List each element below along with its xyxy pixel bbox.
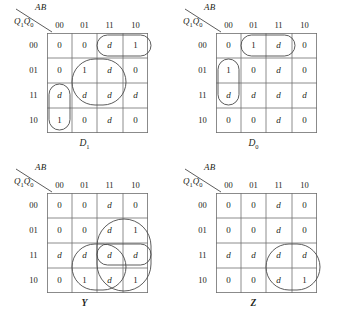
kmap-cell: 0 [216,33,241,58]
kmap-cell: d [72,83,97,108]
kmap-grid-d1: 00d101d0dddd10d0 [47,33,148,133]
kmap-caption-d1: D1 [0,138,169,150]
kmap-cell: d [97,58,122,83]
row-header-11: 11 [191,83,214,108]
column-headers: 00 01 11 10 [216,20,317,32]
row-header-11: 11 [22,243,45,268]
kmap-grid-z: 00d000d0dddd00d1 [216,193,317,293]
karnaugh-map-figure: AB Q1Q0 00 01 11 10 00 01 11 10 [0,0,338,321]
clipped-caption-text [0,313,338,320]
kmap-cell: 0 [216,193,241,218]
row-headers: 00 01 11 10 [22,33,45,133]
kmap-cell: 1 [47,108,72,133]
kmap-z: AB Q1Q0 00 01 11 10 00 01 11 10 [169,160,338,320]
row-headers: 00 01 11 10 [191,193,214,293]
axis-label-q1q0: Q1Q0 [183,176,203,188]
kmap-cell: 0 [123,108,148,133]
kmap-cell: d [266,58,291,83]
kmap-cell: d [292,83,317,108]
kmap-cells-z: 00d000d0dddd00d1 [216,193,317,293]
caption-text: Z [251,298,257,308]
kmap-caption-d0: D0 [169,138,338,150]
kmap-cell: d [292,243,317,268]
axis-label-q1q0: Q1Q0 [14,176,34,188]
kmap-cell: 0 [47,193,72,218]
kmap-cell: d [97,83,122,108]
kmap-caption-y: Y [0,298,169,308]
column-headers: 00 01 11 10 [47,180,148,192]
kmap-cell: 0 [292,58,317,83]
column-header-10: 10 [292,180,317,190]
column-headers: 00 01 11 10 [47,20,148,32]
row-header-10: 10 [22,268,45,293]
kmap-cells-d1: 00d101d0dddd10d0 [47,33,148,133]
kmap-cell: 0 [292,193,317,218]
kmap-cell: d [47,83,72,108]
column-header-00: 00 [216,180,241,190]
caption-text: D0 [248,138,258,148]
kmap-cell: 0 [72,108,97,133]
axis-label-q1q0: Q1Q0 [14,16,34,28]
kmap-cell: 0 [216,268,241,293]
kmap-cell: d [123,243,148,268]
kmap-cell: d [123,83,148,108]
kmap-cell: 1 [216,58,241,83]
kmap-cell: 1 [72,58,97,83]
kmap-grid-y: 00d000d1dddd01d1 [47,193,148,293]
column-header-01: 01 [72,180,97,190]
kmap-cell: d [97,193,122,218]
column-header-01: 01 [241,20,266,30]
column-header-00: 00 [216,20,241,30]
kmap-d0: AB Q1Q0 00 01 11 10 00 01 11 10 [169,0,338,160]
kmap-cell: d [266,218,291,243]
kmap-cells-y: 00d000d1dddd01d1 [47,193,148,293]
caption-text: Y [82,298,88,308]
kmap-cell: 0 [292,108,317,133]
row-header-11: 11 [191,243,214,268]
kmap-y: AB Q1Q0 00 01 11 10 00 01 11 10 [0,160,169,320]
kmap-cell: d [97,268,122,293]
kmap-cell: 0 [47,268,72,293]
kmap-cell: 1 [123,268,148,293]
column-header-10: 10 [292,20,317,30]
kmap-cell: d [241,83,266,108]
column-header-00: 00 [47,20,72,30]
kmap-cell: d [266,193,291,218]
kmap-cell: 0 [47,33,72,58]
axis-label-ab: AB [35,2,46,12]
kmap-cell: 0 [292,218,317,243]
row-header-00: 00 [191,193,214,218]
kmap-cell: d [266,33,291,58]
row-header-00: 00 [191,33,214,58]
kmap-cell: d [72,243,97,268]
row-header-01: 01 [191,218,214,243]
kmap-cell: 0 [241,58,266,83]
column-header-11: 11 [266,180,291,190]
kmap-cell: 0 [241,193,266,218]
kmap-cell: d [266,108,291,133]
kmap-caption-z: Z [169,298,338,308]
kmap-cell: 0 [123,58,148,83]
row-headers: 00 01 11 10 [22,193,45,293]
kmap-cell: 1 [123,33,148,58]
column-header-01: 01 [241,180,266,190]
kmap-cell: d [97,243,122,268]
kmap-grid-d0: 01d010d0dddd00d0 [216,33,317,133]
kmap-cell: 1 [123,218,148,243]
column-headers: 00 01 11 10 [216,180,317,192]
kmap-cell: d [97,108,122,133]
axis-label-ab: AB [35,162,46,172]
column-header-10: 10 [123,20,148,30]
row-header-10: 10 [191,108,214,133]
kmap-cell: d [216,243,241,268]
kmap-cell: 0 [47,218,72,243]
row-header-10: 10 [191,268,214,293]
clipped-figure-caption [0,313,338,321]
caption-text: D1 [79,138,89,148]
column-header-01: 01 [72,20,97,30]
kmap-cell: 0 [72,193,97,218]
column-header-11: 11 [266,20,291,30]
kmap-cell: d [266,268,291,293]
row-header-00: 00 [22,193,45,218]
kmap-cell: 1 [72,268,97,293]
